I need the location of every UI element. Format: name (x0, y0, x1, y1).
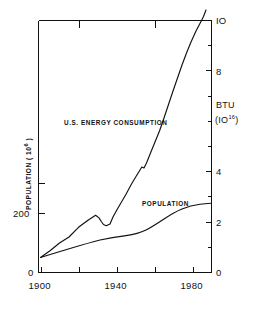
chart-figure: U.S. ENERGY CONSUMPTION POPULATION 1900 … (0, 0, 259, 310)
y-right-axis-units-open: (IO (215, 115, 228, 125)
x-tick-label-1940: 1940 (105, 280, 127, 291)
y-right-axis-title-units: (IO16) (215, 114, 239, 125)
y-right-axis-title-main: BTU (216, 100, 235, 110)
x-tick-label-1900: 1900 (29, 280, 51, 291)
y-axis-ticks-right (206, 46, 212, 273)
y-left-tick-label-0: 0 (28, 267, 33, 278)
y-right-tick-label-8: 8 (216, 66, 221, 77)
x-axis-ticks-bottom (42, 267, 194, 273)
line-chart-canvas: U.S. ENERGY CONSUMPTION POPULATION 1900 … (0, 0, 259, 310)
plot-frame (39, 21, 212, 273)
series-line-energy-consumption (41, 10, 207, 258)
y-right-tick-label-4: 4 (216, 166, 221, 177)
y-right-axis-units-exponent: 16 (228, 114, 235, 120)
y-right-tick-label-0: 0 (216, 267, 221, 278)
annotation-energy-consumption: U.S. ENERGY CONSUMPTION (64, 119, 167, 126)
annotation-population: POPULATION (142, 200, 189, 207)
y-axis-ticks-left (39, 184, 45, 214)
y-left-axis-title-main: POPULATION ( 10 (25, 147, 33, 210)
y-left-axis-title: POPULATION ( 106 ) (23, 138, 33, 210)
series-line-population (41, 203, 212, 257)
x-axis-ticks-top (80, 21, 156, 28)
y-right-tick-label-2: 2 (216, 217, 221, 228)
y-left-axis-title-tail: ) (25, 138, 33, 143)
y-right-tick-label-10: IO (216, 15, 226, 26)
y-right-axis-units-close: ) (235, 115, 238, 125)
x-tick-label-1980: 1980 (181, 280, 203, 291)
